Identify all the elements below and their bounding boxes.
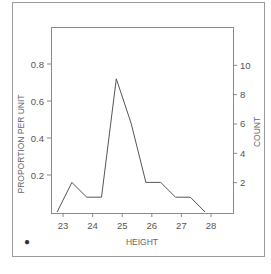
x-tick-label: 23 [58, 220, 69, 231]
panel-marker: ● [24, 236, 30, 247]
y-axis-ticks: 0.20.40.60.8 [31, 59, 51, 181]
y2-tick-label: 8 [240, 89, 245, 100]
x-tick-label: 26 [147, 220, 158, 231]
frequency-polygon-chart: 232425262728 0.20.40.60.8 246810 HEIGHT … [0, 0, 271, 274]
y-tick-label: 0.6 [31, 96, 44, 107]
frequency-line [57, 79, 205, 212]
outer-frame [13, 3, 265, 257]
y-tick-label: 0.2 [31, 170, 44, 181]
y2-tick-label: 10 [240, 60, 251, 71]
x-tick-label: 25 [117, 220, 128, 231]
y2-axis-label: COUNT [252, 117, 262, 147]
y2-tick-label: 4 [240, 148, 245, 159]
y2-tick-label: 6 [240, 118, 245, 129]
y2-tick-label: 2 [240, 177, 245, 188]
y-tick-label: 0.8 [31, 59, 44, 70]
x-axis-label: HEIGHT [126, 237, 158, 247]
y-axis-label: PROPORTION PER UNIT [16, 94, 26, 193]
y2-axis-ticks: 246810 [233, 60, 251, 188]
x-tick-label: 24 [87, 220, 98, 231]
plot-frame [52, 28, 234, 214]
x-axis-ticks: 232425262728 [58, 213, 217, 231]
x-tick-label: 28 [206, 220, 217, 231]
y-tick-label: 0.4 [31, 133, 44, 144]
x-tick-label: 27 [176, 220, 187, 231]
